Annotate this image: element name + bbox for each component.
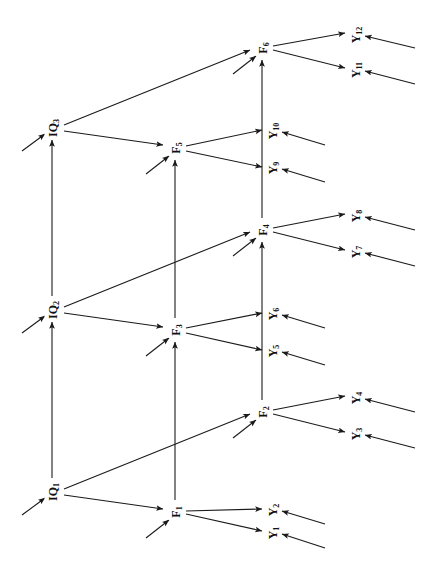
path-diagram-figure: IQ1IQ2IQ3F1F2F3F4F5F6Y1Y2Y3Y4Y5Y6Y7Y8Y9Y… (0, 0, 431, 561)
residuals-edge (282, 169, 325, 182)
indicator-node-y11: Y11 (347, 62, 364, 78)
disturbances-edge (22, 498, 45, 515)
indicator-node-y12: Y12 (347, 27, 364, 44)
residuals-edge (282, 352, 325, 365)
indicator-node-y7: Y7 (347, 246, 364, 259)
indicator-node-y10: Y10 (264, 123, 281, 140)
indicator-node-y2: Y2 (264, 504, 281, 517)
indicator-node-y5: Y5 (264, 345, 281, 358)
factor-to-indicator-edge (186, 333, 262, 350)
node-label-base: Y (266, 166, 280, 175)
factor-node-f6: F6 (254, 42, 271, 53)
node-label-base: F (256, 410, 270, 417)
disturbances-edge (146, 520, 169, 538)
node-label-base: Y (349, 214, 363, 223)
node-label-subscript: 9 (272, 162, 281, 166)
node-label-base: Y (349, 432, 363, 441)
node-label-subscript: 1 (175, 506, 184, 510)
iq-node-iq1: IQ1 (44, 483, 61, 501)
factor-to-indicator-edge (273, 232, 345, 250)
residuals-edge (282, 534, 325, 548)
iq-to-factor-edge (64, 50, 250, 125)
iq-to-factor-edge (64, 232, 250, 307)
node-label-subscript: 10 (272, 123, 281, 131)
node-label-subscript: 2 (262, 406, 271, 410)
node-label-base: IQ (46, 487, 60, 501)
factor-to-indicator-edge (273, 414, 345, 432)
factor-to-indicator-edge (273, 396, 345, 410)
iq-to-factor-edge (64, 313, 163, 327)
node-label-base: Y (266, 508, 280, 517)
residuals-edge (282, 315, 325, 328)
node-label-subscript: 7 (355, 246, 364, 250)
factor-node-f3: F3 (167, 324, 184, 335)
node-label-base: F (256, 46, 270, 53)
disturbances-edge (146, 156, 169, 174)
node-label-base: F (169, 328, 183, 335)
node-label-subscript: 3 (52, 119, 61, 123)
iq-to-factor-edge (64, 495, 163, 509)
disturbances-edge (146, 338, 169, 356)
factor-to-indicator-edge (273, 50, 345, 68)
node-label-subscript: 5 (272, 345, 281, 349)
disturbances-edge (233, 56, 256, 74)
disturbances-edge (233, 238, 256, 256)
node-label-base: F (169, 146, 183, 153)
factor-to-indicator-edge (186, 509, 262, 511)
indicator-node-y9: Y9 (264, 162, 281, 175)
residuals-edge (365, 217, 415, 230)
node-label-base: Y (266, 131, 280, 140)
factor-node-f5: F5 (167, 142, 184, 153)
node-label-base: F (169, 510, 183, 517)
node-label-subscript: 12 (355, 27, 364, 35)
factor-to-indicator-edge (273, 214, 345, 228)
iq-to-factor-edge (64, 131, 163, 145)
iq-node-iq2: IQ2 (44, 301, 61, 319)
factor-to-indicator-edge (273, 33, 345, 46)
node-label-base: IQ (46, 123, 60, 137)
disturbances-edge (22, 134, 45, 151)
factor-node-f4: F4 (254, 224, 271, 235)
node-label-subscript: 2 (52, 301, 61, 305)
factor-to-indicator-edge (186, 151, 262, 167)
node-label-subscript: 5 (175, 142, 184, 146)
node-label-subscript: 11 (355, 62, 364, 70)
edge-layer (22, 33, 415, 548)
node-label-base: Y (349, 69, 363, 78)
residuals-edge (365, 435, 415, 448)
indicator-node-y8: Y8 (347, 210, 364, 223)
node-label-base: Y (266, 349, 280, 358)
indicator-node-y1: Y1 (264, 527, 281, 540)
iq-node-iq3: IQ3 (44, 119, 61, 137)
residuals-edge (282, 511, 325, 524)
node-label-base: Y (349, 250, 363, 259)
node-label-subscript: 1 (52, 483, 61, 487)
node-label-subscript: 6 (272, 308, 281, 312)
factor-to-indicator-edge (186, 130, 262, 146)
diagram-canvas (0, 0, 431, 561)
residuals-edge (365, 36, 415, 48)
node-label-subscript: 1 (272, 527, 281, 531)
node-label-base: Y (266, 531, 280, 540)
residuals-edge (365, 253, 415, 266)
residuals-edge (282, 132, 325, 145)
node-label-base: Y (349, 35, 363, 44)
node-label-base: F (256, 228, 270, 235)
residuals-edge (365, 71, 415, 84)
disturbances-edge (233, 420, 256, 438)
iq-to-factor-edge (64, 414, 250, 489)
node-label-subscript: 2 (272, 504, 281, 508)
node-label-subscript: 4 (355, 392, 364, 396)
residuals-edge (365, 399, 415, 412)
node-label-base: IQ (46, 305, 60, 319)
node-label-subscript: 8 (355, 210, 364, 214)
indicator-node-y4: Y4 (347, 392, 364, 405)
indicator-node-y6: Y6 (264, 308, 281, 321)
factor-node-f2: F2 (254, 406, 271, 417)
node-label-subscript: 3 (355, 428, 364, 432)
factor-to-indicator-edge (186, 514, 262, 531)
node-label-subscript: 6 (262, 42, 271, 46)
disturbances-edge (22, 316, 45, 333)
factor-to-indicator-edge (186, 313, 262, 328)
node-label-subscript: 4 (262, 224, 271, 228)
